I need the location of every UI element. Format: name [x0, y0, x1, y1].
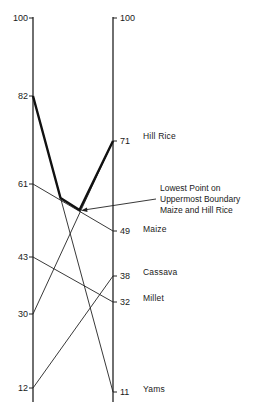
- line-millet: [33, 257, 113, 302]
- uppermost-boundary: [33, 96, 113, 210]
- left-tick-43: 43: [18, 252, 28, 262]
- right-tick-100: 100: [120, 13, 135, 23]
- label-hill-rice: Hill Rice: [143, 131, 176, 141]
- label-yams: Yams: [143, 384, 165, 394]
- right-tick-32: 32: [120, 297, 130, 307]
- annotation-line-3: Maize and Hill Rice: [160, 205, 233, 215]
- label-millet: Millet: [143, 293, 164, 303]
- left-axis-ticks: 100 82 61 43 30 12: [13, 13, 33, 393]
- right-tick-11: 11: [120, 387, 129, 397]
- left-tick-30: 30: [18, 309, 28, 319]
- left-tick-100: 100: [13, 13, 28, 23]
- annotation-text: Lowest Point on Uppermost Boundary Maize…: [160, 183, 241, 215]
- left-tick-82: 82: [18, 91, 28, 101]
- parallel-axis-diagram: 100 82 61 43 30 12 100 71 49 38 32 11 Hi…: [0, 0, 259, 412]
- label-maize: Maize: [143, 224, 167, 234]
- line-cassava: [33, 276, 113, 388]
- right-tick-71: 71: [120, 136, 130, 146]
- right-tick-38: 38: [120, 271, 130, 281]
- annotation-line-2: Uppermost Boundary: [160, 194, 241, 204]
- left-tick-61: 61: [18, 179, 28, 189]
- label-cassava: Cassava: [143, 267, 178, 277]
- left-tick-12: 12: [18, 383, 28, 393]
- annotation-arrow: [81, 199, 156, 212]
- annotation-line-1: Lowest Point on: [160, 183, 221, 193]
- right-tick-49: 49: [120, 226, 130, 236]
